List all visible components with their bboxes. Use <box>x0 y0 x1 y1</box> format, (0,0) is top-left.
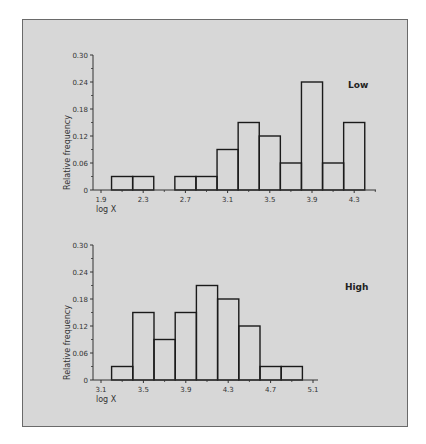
histogram-panel-high: 00.060.120.180.240.303.13.53.94.34.75.1l… <box>63 242 368 405</box>
histogram-bar <box>281 367 302 381</box>
y-tick-label: 0.12 <box>72 133 88 141</box>
histogram-bar <box>196 177 217 191</box>
x-tick-label: 3.9 <box>180 386 191 394</box>
histogram-bar <box>175 177 196 191</box>
histogram-bar <box>323 163 344 190</box>
histogram-bar <box>280 163 301 190</box>
x-axis-label: log X <box>96 395 117 404</box>
histogram-bar <box>238 123 259 191</box>
panel-label: High <box>345 282 368 292</box>
y-tick-label: 0.06 <box>72 350 88 358</box>
x-tick-label: 2.7 <box>180 196 191 204</box>
y-tick-label: 0.24 <box>72 269 88 277</box>
x-tick-label: 3.1 <box>95 386 106 394</box>
y-tick-label: 0.30 <box>72 242 88 250</box>
x-tick-label: 3.5 <box>264 196 275 204</box>
histogram-bar <box>301 82 322 190</box>
histogram-bar <box>112 367 133 381</box>
y-tick-label: 0.18 <box>72 296 88 304</box>
y-axis-label: Relative frequency <box>63 115 72 190</box>
y-tick-label: 0 <box>84 377 88 385</box>
histogram-bar <box>218 299 239 380</box>
x-tick-label: 5.1 <box>307 386 318 394</box>
x-tick-label: 3.9 <box>306 196 317 204</box>
histogram-bar <box>239 326 260 380</box>
x-tick-label: 4.7 <box>265 386 276 394</box>
histogram-bar <box>154 340 175 381</box>
histogram-bar <box>133 313 154 381</box>
y-tick-label: 0.18 <box>72 106 88 114</box>
histogram-panel-low: 00.060.120.180.240.301.92.32.73.13.53.94… <box>63 52 376 215</box>
histogram-bar <box>133 177 154 191</box>
x-tick-label: 4.3 <box>223 386 234 394</box>
histogram-bar <box>260 367 281 381</box>
y-tick-label: 0 <box>84 187 88 195</box>
histogram-figure: 00.060.120.180.240.301.92.32.73.13.53.94… <box>0 0 426 444</box>
x-tick-label: 3.5 <box>138 386 149 394</box>
histogram-bar <box>175 313 196 381</box>
y-axis-label: Relative frequency <box>63 305 72 380</box>
histogram-bar <box>259 136 280 190</box>
y-tick-label: 0.24 <box>72 79 88 87</box>
histogram-bar <box>112 177 133 191</box>
x-tick-label: 1.9 <box>95 196 106 204</box>
x-tick-label: 3.1 <box>222 196 233 204</box>
x-tick-label: 4.3 <box>349 196 360 204</box>
x-tick-label: 2.3 <box>138 196 149 204</box>
histogram-bar <box>196 286 217 381</box>
y-tick-label: 0.12 <box>72 323 88 331</box>
panel-label: Low <box>348 80 368 90</box>
y-tick-label: 0.30 <box>72 52 88 60</box>
histogram-bar <box>344 123 365 191</box>
histogram-bar <box>217 150 238 191</box>
y-tick-label: 0.06 <box>72 160 88 168</box>
x-axis-label: log X <box>96 205 117 214</box>
